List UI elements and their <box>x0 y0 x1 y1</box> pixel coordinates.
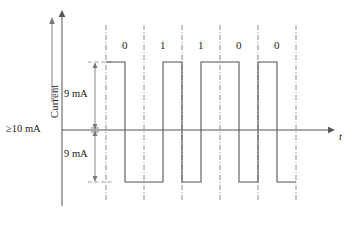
amplitude-label-bottom: 9 mA <box>64 149 88 160</box>
bit-label-3: 0 <box>236 40 242 51</box>
y-axis-label: Current <box>50 85 61 118</box>
bit-label-2: 1 <box>198 40 204 51</box>
bit-label-4: 0 <box>274 40 280 51</box>
amplitude-guide-lines <box>88 62 112 182</box>
threshold-label: ≥10 mA <box>6 124 41 135</box>
time-axis <box>62 127 335 133</box>
amplitude-label-top: 9 mA <box>64 89 88 100</box>
manchester-waveform <box>106 62 296 182</box>
amplitude-dimension-line <box>91 62 99 182</box>
bit-label-0: 0 <box>122 40 128 51</box>
x-axis-label: t <box>339 132 342 143</box>
bit-label-1: 1 <box>160 40 166 51</box>
